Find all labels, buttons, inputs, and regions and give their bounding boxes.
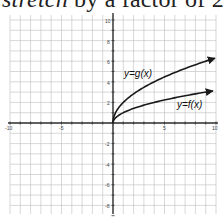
x-tick-label: -10 xyxy=(5,125,12,131)
y-tick-label: -8 xyxy=(105,203,110,209)
x-tick-label: -5 xyxy=(59,125,64,131)
y-tick-label: 4 xyxy=(107,80,110,86)
graph: -10 -5 5 10 10 8 6 4 2 -2 -4 -6 -8 y=g(x… xyxy=(0,0,223,222)
y-tick-label: -4 xyxy=(105,162,110,168)
y-tick-label: -2 xyxy=(105,141,110,147)
curve-f-label: y=f(x) xyxy=(176,99,202,110)
x-tick-label: 5 xyxy=(163,125,166,131)
x-tick-label: 10 xyxy=(212,125,218,131)
y-tick-label: 8 xyxy=(107,39,110,45)
y-tick-label: 6 xyxy=(107,59,110,65)
y-tick-label: 10 xyxy=(105,18,111,24)
y-tick-label: 2 xyxy=(107,100,110,106)
tick-labels: -10 -5 5 10 10 8 6 4 2 -2 -4 -6 -8 xyxy=(5,18,218,209)
axes xyxy=(8,13,218,216)
curve-g-label: y=g(x) xyxy=(123,68,152,79)
y-tick-label: -6 xyxy=(105,182,110,188)
